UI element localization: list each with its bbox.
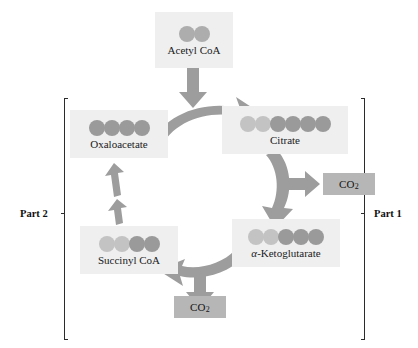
arrow-branch-to-co2-upper: [281, 171, 320, 197]
metabolite-label-acetyl-coa: Acetyl CoA: [168, 44, 221, 56]
carbon-atom: [129, 236, 145, 252]
product-co2-lower[interactable]: CO2: [174, 296, 226, 318]
bracket-part-1-mid-tip: [361, 213, 365, 214]
co2-lower-text: CO: [190, 301, 206, 313]
metabolite-alpha-ketoglutarate[interactable]: α-Ketoglutarate: [232, 219, 340, 267]
bracket-part-2-bottom-tip: [64, 339, 68, 340]
carbon-atom: [278, 229, 294, 245]
carbon-atom: [104, 120, 120, 136]
metabolite-label-oxaloacetate: Oxaloacetate: [90, 138, 147, 150]
metabolite-acetyl-coa[interactable]: Acetyl CoA: [155, 12, 233, 68]
metabolite-oxaloacetate[interactable]: Oxaloacetate: [70, 110, 168, 158]
carbon-atom: [240, 116, 256, 132]
bracket-part-1: [364, 98, 365, 340]
carbon-atom: [89, 120, 105, 136]
carbon-group-citrate: [240, 116, 330, 132]
carbon-atom: [119, 120, 135, 136]
carbon-atom: [300, 116, 316, 132]
carbon-atom: [134, 120, 150, 136]
metabolite-succinyl-coa[interactable]: Succinyl CoA: [80, 226, 178, 274]
carbon-atom: [99, 236, 115, 252]
carbon-atom: [293, 229, 309, 245]
section-label-part-2: Part 2: [20, 208, 48, 219]
product-co2-upper[interactable]: CO2: [323, 173, 375, 195]
carbon-atom: [179, 26, 195, 42]
citric-acid-cycle-diagram: Part 2 Part 1 Acetyl CoA Oxaloacetate Ci…: [0, 0, 418, 348]
bracket-part-2-top-tip: [64, 98, 68, 99]
carbon-atom: [285, 116, 301, 132]
arrow-citrate-to-ketoglutarate: [262, 150, 320, 228]
alpha-ketoglutarate-name: -Ketoglutarate: [257, 247, 321, 259]
carbon-atom: [194, 26, 210, 42]
carbon-atom: [308, 229, 324, 245]
carbon-atom: [255, 116, 271, 132]
metabolite-label-alpha-ketoglutarate: α-Ketoglutarate: [251, 247, 320, 259]
co2-upper-text: CO: [339, 178, 355, 190]
carbon-atom: [114, 236, 130, 252]
metabolite-label-succinyl-coa: Succinyl CoA: [98, 254, 160, 266]
bracket-part-2: [64, 98, 65, 340]
co2-lower-subscript: 2: [206, 305, 210, 314]
carbon-group-alpha-ketoglutarate: [249, 229, 324, 245]
co2-upper-subscript: 2: [355, 182, 359, 191]
metabolite-citrate[interactable]: Citrate: [222, 106, 348, 154]
carbon-atom: [263, 229, 279, 245]
carbon-atom: [315, 116, 331, 132]
carbon-atom: [144, 236, 160, 252]
carbon-group-acetyl-coa: [179, 26, 209, 42]
bracket-part-1-top-tip: [361, 98, 365, 99]
carbon-group-oxaloacetate: [89, 120, 149, 136]
carbon-atom: [248, 229, 264, 245]
bracket-part-2-mid-tip: [61, 213, 65, 214]
carbon-group-succinyl-coa: [99, 236, 159, 252]
metabolite-label-citrate: Citrate: [270, 134, 300, 146]
section-label-part-1: Part 1: [374, 208, 402, 219]
arrow-acetyl-coa-to-cycle: [179, 68, 207, 108]
bracket-part-1-bottom-tip: [361, 339, 365, 340]
carbon-atom: [270, 116, 286, 132]
